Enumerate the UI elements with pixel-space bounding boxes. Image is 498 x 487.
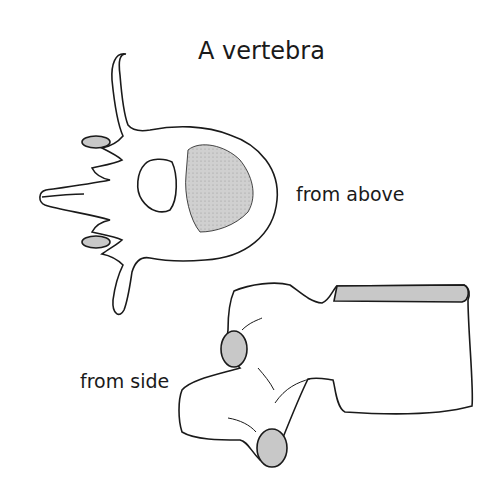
vertebra-illustration: [0, 0, 498, 487]
top-endplate: [334, 285, 468, 302]
inferior-articular-process: [257, 429, 287, 467]
side-view-vertebra: [179, 283, 472, 467]
top-view-vertebra: [40, 54, 277, 315]
superior-articular-process: [221, 331, 247, 367]
side-view-outline: [179, 283, 472, 460]
facet-lower: [82, 236, 110, 248]
facet-upper: [82, 136, 110, 148]
